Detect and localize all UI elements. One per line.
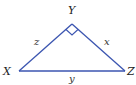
vertex-label-x: X [2, 65, 12, 78]
side-x-line [72, 24, 125, 71]
side-label-x: x [104, 36, 110, 47]
right-triangle-diagram: Y X Z z x y [0, 0, 136, 85]
vertex-label-y: Y [68, 4, 77, 17]
side-label-y: y [68, 73, 75, 84]
side-label-z: z [33, 36, 40, 47]
vertex-label-z: Z [126, 65, 135, 78]
side-z-line [19, 24, 72, 71]
right-angle-marker-icon [66, 30, 78, 36]
